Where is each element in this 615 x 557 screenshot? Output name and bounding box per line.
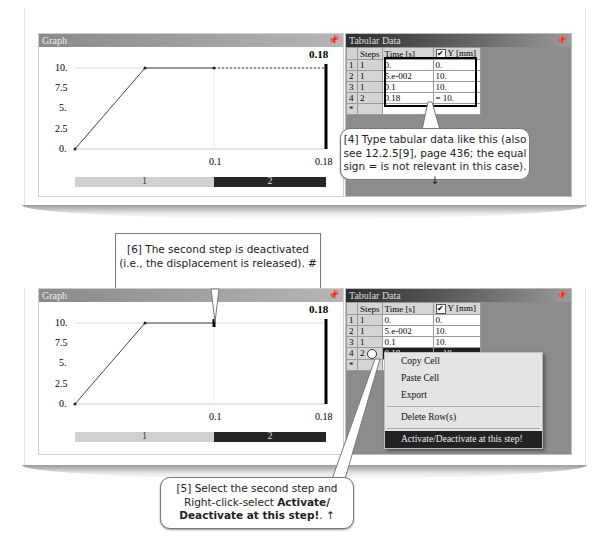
callout-pointers [0, 0, 615, 557]
callout-5: [5] Select the second step and Right-cli… [160, 477, 354, 529]
